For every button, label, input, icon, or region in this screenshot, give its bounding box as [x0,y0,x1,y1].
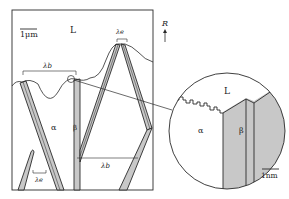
lambda-e-bottom-brace [33,170,46,173]
inset-beta-label: β [239,126,244,135]
scale-bar-nm-label: 1nm [261,171,278,180]
inset-liquid-label: L [224,86,230,96]
central-vertical-plate [74,79,80,190]
magnified-inset [170,88,289,199]
beta-plates [18,44,152,190]
lower-right-plate [119,128,152,190]
alpha-label: α [51,123,57,132]
lambda-b-top-brace [23,71,76,75]
scale-bar-um-label: 1μm [20,30,38,39]
inset-alpha-label: α [198,126,204,135]
branch-plate-left [80,44,120,162]
lambda-e-top-label: λe [115,28,124,36]
growth-direction-label: R [161,19,168,28]
lambda-e-bottom-label: λe [34,176,43,184]
eutectic-growth-diagram: 1μm L λe λb α β λe λb R L α β 1nm [0,0,289,199]
liquid-label: L [70,25,76,35]
lambda-b-bottom-label: λb [100,162,110,170]
small-bottom-plate [18,150,34,190]
up-arrow-icon [163,29,167,42]
lambda-e-top-brace [117,39,127,42]
lambda-b-top-label: λb [42,62,52,70]
inset-leader-line [74,80,172,110]
beta-label: β [73,124,77,132]
